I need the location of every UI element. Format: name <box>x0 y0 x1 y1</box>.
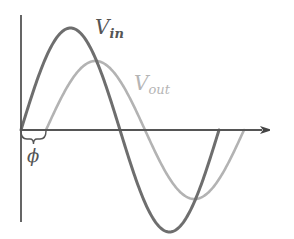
v-in-label-sub: in <box>109 26 123 41</box>
phase-shift-diagram: Vin Vout ϕ <box>0 0 294 239</box>
phase-symbol: ϕ <box>27 145 39 166</box>
v-out-label: Vout <box>134 71 171 97</box>
phase-brace <box>21 131 46 144</box>
v-out-label-sub: out <box>148 82 170 97</box>
v-in-label: Vin <box>95 15 124 41</box>
